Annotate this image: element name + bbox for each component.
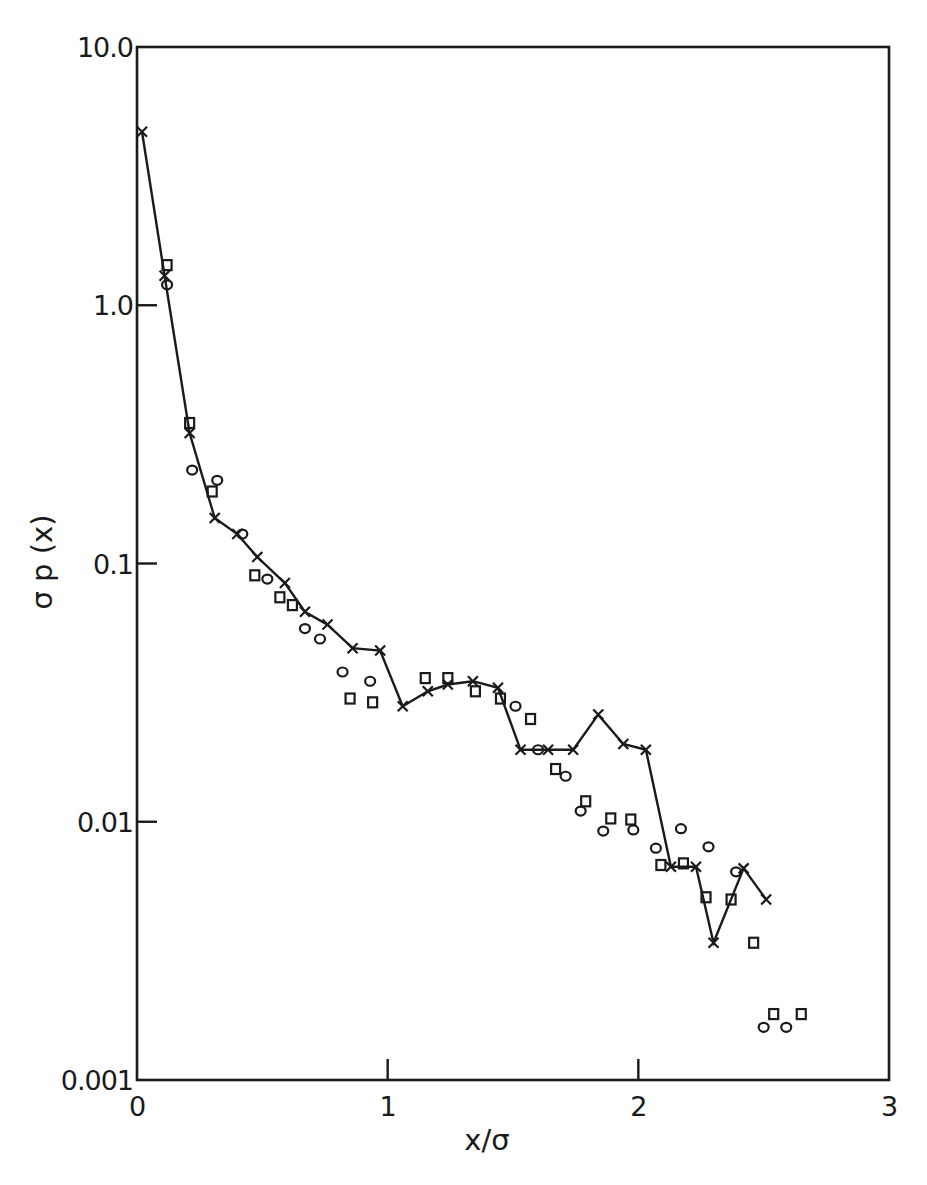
square-marker [656, 860, 665, 870]
square-marker [368, 697, 377, 707]
series-square [163, 260, 806, 1019]
square-marker [626, 815, 635, 825]
x-tick-label: 1 [380, 1091, 396, 1122]
circle-marker [598, 827, 608, 836]
data-series [137, 127, 806, 1032]
y-tick-label: 10.0 [77, 32, 133, 63]
cross-marker [252, 552, 262, 562]
y-tick-label: 0.01 [77, 807, 133, 838]
x-axis-label: x/σ [464, 1123, 509, 1157]
cross-marker [761, 894, 771, 904]
y-axis-ticks: 10.01.00.10.010.001 [61, 32, 157, 1096]
chart: 0123 10.01.00.10.010.001 x/σ σ p (x) [0, 0, 927, 1185]
square-marker [471, 686, 480, 696]
square-marker [551, 764, 560, 774]
y-tick-label: 1.0 [93, 290, 133, 321]
square-marker [250, 570, 259, 580]
circle-marker [511, 702, 521, 711]
circle-marker [704, 842, 714, 851]
circle-marker [628, 825, 638, 834]
square-marker [421, 673, 430, 683]
cross-marker [300, 607, 310, 617]
cross-marker [280, 578, 290, 588]
circle-marker [781, 1023, 791, 1032]
circle-marker [212, 476, 222, 485]
series-x [137, 127, 771, 948]
plot-frame [137, 47, 889, 1080]
y-axis-label: σ p (x) [25, 514, 59, 609]
circle-marker [676, 824, 686, 833]
circle-marker [338, 668, 348, 677]
square-marker [797, 1009, 806, 1019]
circle-marker [561, 772, 571, 781]
square-marker [526, 714, 535, 724]
square-marker [288, 600, 297, 610]
series-circle [162, 280, 791, 1031]
y-tick-label: 0.1 [93, 549, 133, 580]
square-marker [346, 694, 355, 704]
square-marker [769, 1009, 778, 1019]
circle-marker [315, 635, 325, 644]
circle-marker [365, 677, 375, 686]
circle-marker [262, 575, 272, 584]
circle-marker [187, 466, 197, 475]
circle-marker [651, 844, 661, 853]
circle-marker [576, 807, 586, 816]
cross-marker [593, 710, 603, 720]
square-marker [606, 813, 615, 823]
cross-marker [398, 701, 408, 711]
circle-marker [759, 1023, 769, 1032]
x-tick-label: 2 [630, 1091, 646, 1122]
square-marker [581, 796, 590, 806]
x-axis-ticks: 0123 [129, 1059, 897, 1122]
x-tick-label: 3 [881, 1091, 897, 1122]
y-tick-label: 0.001 [61, 1065, 133, 1096]
square-marker [749, 938, 758, 948]
square-marker [275, 592, 284, 602]
plot-border [137, 47, 889, 1080]
cross-marker [323, 620, 333, 630]
circle-marker [300, 624, 310, 633]
